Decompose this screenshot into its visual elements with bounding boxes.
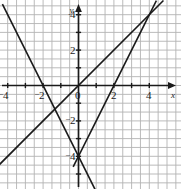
- y-tick-2: 2: [70, 45, 76, 56]
- graph-canvas: [0, 0, 181, 189]
- coordinate-graph: –4–202442–2–4 y x: [0, 0, 181, 189]
- y-axis-label: y: [70, 6, 74, 15]
- grid-lines: [0, 0, 181, 189]
- y-tick-neg2: –2: [66, 115, 76, 126]
- x-tick-0: 0: [75, 90, 81, 101]
- x-tick-neg4: –4: [0, 90, 9, 101]
- negative-sign: –: [0, 89, 3, 98]
- x-tick-2: 2: [111, 90, 117, 101]
- x-tick-4: 4: [146, 90, 152, 101]
- negative-sign: –: [66, 150, 70, 159]
- negative-sign: –: [66, 114, 70, 123]
- line-slope-two: [73, 1, 156, 167]
- negative-sign: –: [35, 89, 39, 98]
- y-tick-neg4: –4: [66, 151, 76, 162]
- line-slope-one: [0, 1, 163, 167]
- x-axis-label: x: [171, 91, 175, 100]
- x-tick-neg2: –2: [35, 90, 45, 101]
